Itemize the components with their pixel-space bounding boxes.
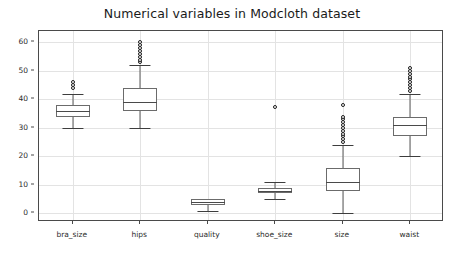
- y-tick-mark: [31, 212, 34, 213]
- whisker-lower: [410, 136, 411, 156]
- box-iqr: [123, 88, 157, 111]
- whisker-upper: [410, 94, 411, 117]
- boxplot-waist: [377, 31, 445, 220]
- y-tick-mark: [31, 69, 34, 70]
- whisker-upper: [342, 145, 343, 168]
- outlier-point: [71, 80, 75, 84]
- median-line: [56, 111, 90, 112]
- box-iqr: [393, 117, 427, 137]
- outlier-point: [138, 40, 142, 44]
- median-line: [393, 125, 427, 126]
- x-tick-label: shoe_size: [256, 230, 292, 239]
- y-tick-label: 30: [18, 122, 28, 131]
- chart-figure: Numerical variables in Modcloth dataset …: [0, 0, 464, 256]
- x-tick-mark: [409, 221, 410, 224]
- cap-lower: [400, 156, 421, 157]
- x-tick-label: bra_size: [56, 230, 87, 239]
- outlier-point: [341, 103, 345, 107]
- x-tick-label: hips: [131, 230, 147, 239]
- y-tick-label: 10: [18, 179, 28, 188]
- x-tick-mark: [139, 221, 140, 224]
- median-line: [123, 102, 157, 103]
- y-tick-label: 50: [18, 65, 28, 74]
- y-tick-mark: [31, 155, 34, 156]
- x-tick-label: waist: [399, 230, 419, 239]
- y-tick-mark: [31, 183, 34, 184]
- boxplot-shoe_size: [242, 31, 310, 220]
- cap-upper: [400, 94, 421, 95]
- y-tick-mark: [31, 98, 34, 99]
- whisker-upper: [140, 65, 141, 88]
- whisker-lower: [342, 191, 343, 214]
- median-line: [191, 202, 225, 203]
- y-tick-label: 0: [23, 208, 28, 217]
- whisker-lower: [140, 111, 141, 128]
- cap-upper: [332, 145, 353, 146]
- x-tick-mark: [207, 221, 208, 224]
- x-tick-mark: [342, 221, 343, 224]
- y-tick-mark: [31, 126, 34, 127]
- cap-lower: [265, 199, 286, 200]
- x-tick-label: quality: [194, 230, 220, 239]
- cap-lower: [62, 128, 83, 129]
- y-axis-ticks: 0102030405060: [0, 30, 34, 221]
- cap-lower: [197, 211, 218, 212]
- outlier-point: [408, 66, 412, 70]
- chart-title: Numerical variables in Modcloth dataset: [0, 6, 464, 21]
- box-iqr: [326, 168, 360, 191]
- cap-upper: [62, 94, 83, 95]
- boxplot-size: [309, 31, 377, 220]
- median-line: [326, 182, 360, 183]
- boxplot-hips: [107, 31, 175, 220]
- whisker-lower: [72, 117, 73, 128]
- outlier-point: [273, 105, 277, 109]
- y-tick-mark: [31, 41, 34, 42]
- x-axis-ticks: bra_sizehipsqualityshoe_sizesizewaist: [38, 221, 443, 251]
- boxplot-quality: [174, 31, 242, 220]
- plot-area: [38, 30, 443, 221]
- whisker-upper: [72, 94, 73, 105]
- cap-upper: [130, 65, 151, 66]
- y-tick-label: 40: [18, 94, 28, 103]
- median-line: [258, 191, 292, 192]
- cap-lower: [332, 213, 353, 214]
- x-tick-mark: [72, 221, 73, 224]
- y-tick-label: 20: [18, 151, 28, 160]
- outlier-point: [341, 115, 345, 119]
- x-tick-mark: [274, 221, 275, 224]
- boxplot-bra_size: [39, 31, 107, 220]
- y-tick-label: 60: [18, 37, 28, 46]
- x-tick-label: size: [334, 230, 349, 239]
- cap-lower: [130, 128, 151, 129]
- cap-upper: [265, 182, 286, 183]
